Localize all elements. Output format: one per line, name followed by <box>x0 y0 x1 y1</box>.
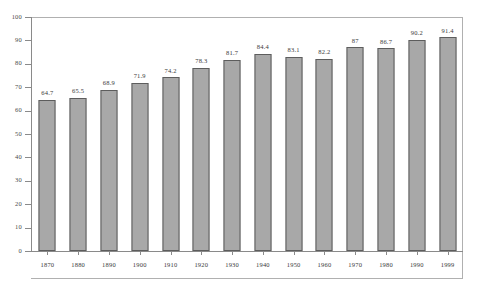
x-axis-tick <box>263 251 264 255</box>
x-axis-tick <box>232 251 233 255</box>
y-axis-tick <box>25 64 31 65</box>
bar-slot: 87 <box>340 17 371 251</box>
bar <box>316 59 333 251</box>
bar-slot: 81.7 <box>217 17 248 251</box>
bar-value-label: 71.9 <box>134 73 146 80</box>
x-axis-label: 1970 <box>348 262 362 269</box>
x-axis-tick <box>355 251 356 255</box>
x-axis-tick <box>386 251 387 255</box>
y-axis-label: 100 <box>0 14 22 21</box>
bar-slot: 78.3 <box>186 17 217 251</box>
x-axis-label: 1890 <box>102 262 116 269</box>
x-axis-tick <box>47 251 48 255</box>
bar-slot: 83.1 <box>278 17 309 251</box>
bar <box>224 60 241 251</box>
y-axis-label: 70 <box>0 84 22 91</box>
y-axis-label: 50 <box>0 131 22 138</box>
bar <box>439 37 456 251</box>
y-axis-tick <box>25 181 31 182</box>
bar <box>131 83 148 251</box>
x-axis-label: 1990 <box>410 262 424 269</box>
bar-value-label: 83.1 <box>288 47 300 54</box>
bar-slot: 82.2 <box>309 17 340 251</box>
bar-slot: 91.4 <box>432 17 463 251</box>
y-axis-tick <box>25 228 31 229</box>
y-axis-label: 40 <box>0 154 22 161</box>
bar-slot: 65.5 <box>63 17 94 251</box>
bars-area: 64.765.568.971.974.278.381.784.483.182.2… <box>32 17 463 251</box>
x-axis-tick <box>294 251 295 255</box>
x-axis-label: 1870 <box>40 262 54 269</box>
bar-value-label: 64.7 <box>41 90 53 97</box>
bar-slot: 90.2 <box>401 17 432 251</box>
y-axis-tick <box>25 40 31 41</box>
bar <box>100 90 117 251</box>
x-axis-label: 1960 <box>318 262 332 269</box>
x-axis-tick <box>171 251 172 255</box>
y-axis-label: 10 <box>0 224 22 231</box>
x-axis-tick <box>324 251 325 255</box>
y-axis-tick <box>25 157 31 158</box>
bar-slot: 68.9 <box>94 17 125 251</box>
bar-chart: 64.765.568.971.974.278.381.784.483.182.2… <box>0 0 477 289</box>
bar-value-label: 82.2 <box>318 49 330 56</box>
y-axis-tick <box>25 204 31 205</box>
x-axis-tick <box>417 251 418 255</box>
x-axis-label: 1910 <box>164 262 178 269</box>
bar <box>285 57 302 251</box>
x-axis-tick <box>448 251 449 255</box>
x-axis-label: 1920 <box>194 262 208 269</box>
bar-slot: 86.7 <box>371 17 402 251</box>
x-axis-label: 1880 <box>71 262 85 269</box>
y-axis-label: 60 <box>0 107 22 114</box>
y-axis-tick <box>25 134 31 135</box>
x-axis-label: 1999 <box>441 262 455 269</box>
x-axis-label: 1940 <box>256 262 270 269</box>
x-axis-tick <box>201 251 202 255</box>
bar <box>254 54 271 251</box>
y-axis-tick <box>25 17 31 18</box>
bar-value-label: 90.2 <box>411 30 423 37</box>
x-axis-label: 1980 <box>379 262 393 269</box>
x-axis-tick <box>109 251 110 255</box>
bar <box>39 100 56 251</box>
y-axis-tick <box>25 111 31 112</box>
bar-value-label: 86.7 <box>380 39 392 46</box>
bar-value-label: 87 <box>352 38 359 45</box>
bar-slot: 74.2 <box>155 17 186 251</box>
y-axis-tick <box>25 251 31 252</box>
y-axis-label: 0 <box>0 248 22 255</box>
bar <box>193 68 210 251</box>
bar-slot: 64.7 <box>32 17 63 251</box>
bar-value-label: 78.3 <box>195 58 207 65</box>
bar-value-label: 74.2 <box>164 68 176 75</box>
x-axis-tick <box>140 251 141 255</box>
x-axis-label: 1900 <box>133 262 147 269</box>
bar-value-label: 65.5 <box>72 88 84 95</box>
bar <box>408 40 425 251</box>
y-axis-label: 30 <box>0 177 22 184</box>
bar <box>162 77 179 251</box>
y-axis-label: 20 <box>0 201 22 208</box>
bar <box>378 48 395 251</box>
y-axis-tick <box>25 87 31 88</box>
bar-value-label: 68.9 <box>103 80 115 87</box>
x-axis-label: 1950 <box>287 262 301 269</box>
bar-value-label: 81.7 <box>226 50 238 57</box>
y-axis-label: 90 <box>0 37 22 44</box>
bar <box>347 47 364 251</box>
bar-slot: 84.4 <box>248 17 279 251</box>
x-axis-line <box>31 251 463 252</box>
x-axis-label: 1930 <box>225 262 239 269</box>
y-axis-label: 80 <box>0 60 22 67</box>
bar-value-label: 91.4 <box>442 28 454 35</box>
bar <box>70 98 87 251</box>
bar-slot: 71.9 <box>124 17 155 251</box>
bar-value-label: 84.4 <box>257 44 269 51</box>
x-axis-tick <box>78 251 79 255</box>
